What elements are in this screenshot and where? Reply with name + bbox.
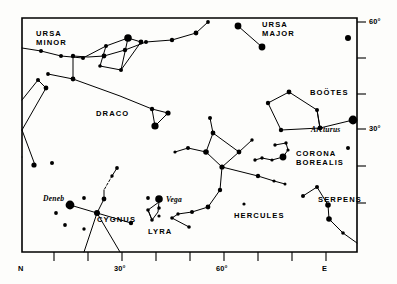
axis-label-az-30: 30° <box>114 264 126 273</box>
constellation-cygnus <box>54 166 133 252</box>
chart-frame <box>22 18 357 252</box>
axis-label-alt-60: 60° <box>369 17 381 26</box>
constellation-serpens <box>301 185 357 243</box>
axis-label-alt-30: 30° <box>369 124 381 133</box>
star-label-vega: Vega <box>166 195 182 204</box>
label-corona-borealis: CORONA BOREALIS <box>296 150 344 167</box>
field-stars <box>22 78 246 229</box>
label-ursa-minor-line2: MINOR <box>36 39 67 48</box>
bottom-axis-ticks <box>54 252 326 261</box>
label-ursa-major-line2: MAJOR <box>262 30 295 39</box>
axis-label-east: E <box>322 264 327 273</box>
star-label-deneb: Deneb <box>43 194 64 203</box>
label-lyra: LYRA <box>148 228 172 237</box>
label-ursa-major: URSA MAJOR <box>262 21 295 38</box>
axis-label-north: N <box>18 264 24 273</box>
constellation-hercules <box>173 116 286 216</box>
label-draco: DRACO <box>96 110 129 119</box>
label-serpens: SERPENS <box>318 196 362 205</box>
constellation-lyra <box>146 195 163 222</box>
right-axis-ticks <box>357 22 366 203</box>
axis-label-az-60: 60° <box>216 264 228 273</box>
label-bootes: BOÖTES <box>310 89 349 98</box>
label-ursa-minor: URSA MINOR <box>36 30 67 47</box>
label-hercules: HERCULES <box>234 212 285 221</box>
star-label-arcturus: Arcturus <box>311 125 340 134</box>
label-corona-borealis-line2: BOREALIS <box>296 159 344 168</box>
star-chart: URSA MINOR URSA MAJOR DRACO BOÖTES CORON… <box>0 0 397 284</box>
label-cygnus: CYGNUS <box>97 216 136 225</box>
